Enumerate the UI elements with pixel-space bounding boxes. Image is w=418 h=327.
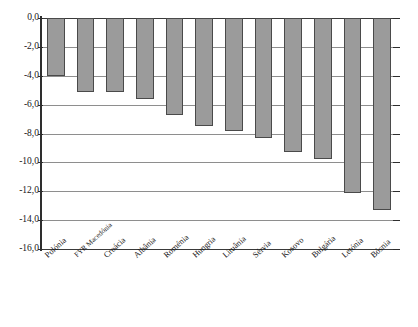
- y-tick-mark: [38, 162, 43, 163]
- bar[interactable]: [284, 18, 302, 152]
- y-tick-mark-right: [393, 162, 400, 163]
- gridline--14_0: [41, 220, 397, 221]
- y-tick-mark-right: [393, 191, 400, 192]
- bar[interactable]: [195, 18, 213, 126]
- bar[interactable]: [77, 18, 95, 92]
- y-tick-mark: [38, 105, 43, 106]
- y-tick-mark: [38, 76, 43, 77]
- bar[interactable]: [166, 18, 184, 115]
- y-tick-label: -10,0: [19, 157, 39, 167]
- y-tick-mark-right: [393, 76, 400, 77]
- y-tick-label: -8,0: [24, 129, 39, 139]
- bar[interactable]: [225, 18, 243, 131]
- y-tick-mark: [38, 47, 43, 48]
- y-tick-mark-right: [393, 105, 400, 106]
- x-axis-category-labels: PolóniaFYR MacedóniaCroáciaAlbâniaRoméni…: [0, 249, 418, 327]
- y-tick-label: -14,0: [19, 215, 39, 225]
- bar[interactable]: [344, 18, 362, 193]
- bar[interactable]: [314, 18, 332, 159]
- bar[interactable]: [47, 18, 65, 76]
- y-tick-label: -4,0: [24, 71, 39, 81]
- bar-chart-figure: 0,0-2,0-4,0-6,0-8,0-10,0-12,0-14,0-16,0 …: [0, 0, 418, 327]
- y-tick-mark-right: [393, 47, 400, 48]
- y-tick-mark-right: [393, 220, 400, 221]
- y-tick-mark: [38, 249, 43, 250]
- bar[interactable]: [136, 18, 154, 99]
- plot-area: [41, 18, 397, 249]
- y-tick-label: -6,0: [24, 100, 39, 110]
- bar[interactable]: [373, 18, 391, 210]
- y-tick-mark: [38, 220, 43, 221]
- y-tick-mark-right: [393, 134, 400, 135]
- y-tick-mark-right: [393, 249, 400, 250]
- y-tick-mark: [38, 134, 43, 135]
- y-tick-mark-right: [393, 18, 400, 19]
- y-tick-mark: [38, 18, 43, 19]
- bar[interactable]: [106, 18, 124, 92]
- y-tick-label: -12,0: [19, 186, 39, 196]
- y-tick-label: -2,0: [24, 42, 39, 52]
- bar[interactable]: [255, 18, 273, 138]
- y-tick-mark: [38, 191, 43, 192]
